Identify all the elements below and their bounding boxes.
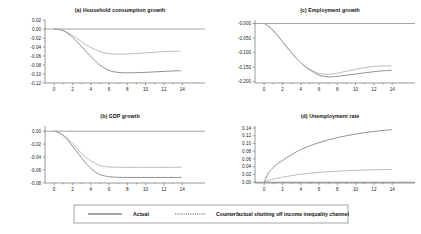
- panel-title: (c) Employment growth: [300, 7, 360, 13]
- legend: Actual Counterfactual shutting off incom…: [74, 205, 349, 223]
- x-tick-label: 2: [281, 187, 284, 192]
- x-tick-label: 14: [390, 87, 396, 92]
- y-tick-label: 0.10: [242, 141, 251, 146]
- x-tick-label: 10: [353, 87, 359, 92]
- y-tick-label: -0.02: [31, 36, 42, 41]
- y-tick-label: -0.050: [238, 36, 251, 41]
- x-tick-label: 14: [390, 187, 396, 192]
- x-tick-label: 8: [126, 87, 129, 92]
- x-tick-label: 14: [180, 187, 186, 192]
- x-tick-label: 6: [108, 187, 111, 192]
- x-tick-label: 4: [299, 87, 302, 92]
- y-tick-label: -0.200: [238, 79, 251, 84]
- x-tick-label: 4: [89, 187, 92, 192]
- x-tick-label: 0: [53, 87, 56, 92]
- x-tick-label: 8: [336, 187, 339, 192]
- y-tick-label: 0.02: [32, 18, 41, 23]
- legend-label-actual: Actual: [133, 211, 149, 217]
- x-tick-label: 4: [299, 187, 302, 192]
- y-tick-label: 0.12: [242, 133, 251, 138]
- x-tick-label: 0: [53, 187, 56, 192]
- y-tick-label: 0.08: [242, 149, 251, 154]
- panel-title: (d) Unemployment rate: [301, 113, 360, 119]
- panel-title: (a) Household consumption growth: [75, 7, 166, 13]
- x-tick-label: 2: [71, 187, 74, 192]
- x-tick-label: 0: [263, 87, 266, 92]
- x-tick-label: 8: [126, 187, 129, 192]
- x-tick-label: 4: [89, 87, 92, 92]
- y-tick-label: 0.06: [242, 157, 251, 162]
- x-tick-label: 8: [336, 87, 339, 92]
- y-tick-label: -0.06: [31, 168, 42, 173]
- y-tick-label: 0.00: [32, 27, 41, 32]
- x-tick-label: 2: [281, 87, 284, 92]
- x-tick-label: 6: [318, 87, 321, 92]
- y-tick-label: -0.04: [31, 155, 42, 160]
- y-tick-label: 0.02: [242, 172, 251, 177]
- y-tick-label: -0.08: [31, 63, 42, 68]
- y-tick-label: -0.12: [31, 81, 42, 86]
- legend-label-counterfactual: Counterfactual shutting off income inequ…: [216, 211, 349, 217]
- x-tick-label: 10: [143, 87, 149, 92]
- y-tick-label: -0.100: [238, 50, 251, 55]
- y-tick-label: -0.150: [238, 65, 251, 70]
- y-tick-label: -0.10: [31, 72, 42, 77]
- y-tick-label: 0.14: [242, 126, 251, 131]
- panel-title: (b) GDP growth: [100, 113, 139, 119]
- y-tick-label: 0.00: [32, 129, 41, 134]
- y-tick-label: -0.08: [31, 181, 42, 186]
- x-tick-label: 14: [180, 87, 186, 92]
- y-tick-label: -0.06: [31, 54, 42, 59]
- x-tick-label: 12: [371, 187, 377, 192]
- y-tick-label: -0.04: [31, 45, 42, 50]
- y-tick-label: 0.00: [242, 180, 251, 185]
- y-tick-label: -0.000: [238, 21, 251, 26]
- x-tick-label: 2: [71, 87, 74, 92]
- x-tick-label: 0: [263, 187, 266, 192]
- x-tick-label: 12: [161, 87, 167, 92]
- x-tick-label: 10: [353, 187, 359, 192]
- x-tick-label: 6: [318, 187, 321, 192]
- x-tick-label: 10: [143, 187, 149, 192]
- y-tick-label: 0.04: [242, 164, 251, 169]
- x-tick-label: 6: [108, 87, 111, 92]
- impulse-response-figure: (a) Household consumption growth0.020.00…: [0, 0, 421, 234]
- y-tick-label: -0.02: [31, 142, 42, 147]
- x-tick-label: 12: [161, 187, 167, 192]
- x-tick-label: 12: [371, 87, 377, 92]
